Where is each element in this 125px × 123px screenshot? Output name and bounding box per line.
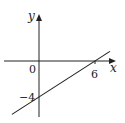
line-graph: x y 0 6 −4: [0, 0, 125, 123]
x-axis-label: x: [110, 61, 117, 75]
y-tick-label: −4: [19, 91, 35, 104]
x-tick-label: 6: [91, 68, 98, 81]
origin-label: 0: [29, 63, 36, 76]
y-axis-arrow-icon: [36, 14, 42, 21]
y-axis-label: y: [27, 9, 35, 23]
